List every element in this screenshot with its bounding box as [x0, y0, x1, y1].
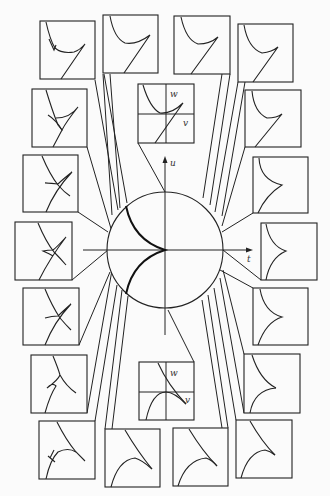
panel-bottom-4	[236, 420, 292, 478]
w-label: w	[170, 89, 178, 99]
v-label: v	[185, 395, 190, 405]
panel-top-3	[174, 16, 230, 74]
panel-top-1	[40, 21, 95, 79]
panel-left-4	[15, 222, 72, 280]
panel-left-3	[23, 155, 78, 212]
panel-left-6	[31, 355, 87, 413]
panel-right-3	[253, 157, 308, 213]
panel-bottom-3	[173, 428, 228, 486]
panel-center-top: w v	[138, 84, 194, 143]
panel-left-7	[39, 421, 95, 479]
panel-right-4	[261, 223, 317, 280]
diagram-svg: u t	[0, 0, 330, 496]
panel-left-5	[23, 288, 79, 345]
diagram-stage: u t	[0, 0, 330, 496]
panel-center-bottom: w v	[139, 362, 194, 420]
panel-top-2	[103, 15, 158, 73]
w-label: w	[170, 368, 178, 378]
u-axis-label: u	[170, 158, 176, 168]
panel-top-4	[238, 24, 293, 82]
u-axis-arrow-icon	[163, 156, 168, 163]
panel-bottom-2	[105, 429, 160, 487]
panel-left-2	[32, 89, 87, 147]
t-axis-label: t	[247, 254, 251, 264]
panel-right-2	[245, 90, 301, 147]
panel-right-6	[244, 354, 300, 413]
t-axis-arrow-icon	[246, 248, 253, 253]
v-label: v	[183, 118, 188, 128]
panel-right-5	[253, 288, 308, 345]
